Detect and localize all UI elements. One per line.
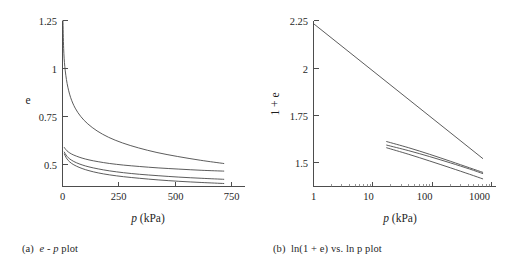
caption-b-suffix: plot [365, 243, 382, 254]
x-ticklabel: 100 [417, 191, 433, 202]
x-ticklabel: 500 [168, 191, 184, 202]
plot-b: 2.25 2 1.75 1.5 1 10 100 1000 1 + e p (k… [255, 0, 510, 235]
plot-a-svg: 1.25 1 0.75 0.5 0 250 500 750 e p (kPa) [0, 0, 255, 235]
plot-a: 1.25 1 0.75 0.5 0 250 500 750 e p (kPa) [0, 0, 255, 235]
caption-b-vs: vs. [331, 243, 343, 254]
y-ticklabel: 2.25 [290, 16, 308, 27]
plot-a-axes [63, 21, 245, 187]
data-curve [387, 148, 483, 179]
y-ticklabel: 1.75 [290, 111, 308, 122]
caption-a-sym1: e [39, 243, 44, 254]
caption-a: (a) e - p plot [22, 243, 78, 254]
y-axis-title-a: e [25, 94, 30, 106]
y-ticklabel: 2 [303, 64, 308, 75]
plot-b-svg: 2.25 2 1.75 1.5 1 10 100 1000 1 + e p (k… [255, 0, 510, 235]
y-ticklabel: 1.25 [39, 16, 57, 27]
caption-b: (b) ln(1 + e) vs. ln p plot [273, 243, 382, 254]
data-curve [314, 24, 483, 159]
caption-b-sym: ln p [346, 243, 362, 254]
x-ticklabels-a: 0 250 500 750 [60, 191, 240, 202]
data-curve [387, 142, 483, 173]
y-ticklabel: 0.75 [39, 112, 57, 123]
y-ticklabels-a: 1.25 1 0.75 0.5 [39, 16, 57, 171]
caption-a-sym2: p [53, 243, 58, 254]
x-ticks-a [63, 182, 232, 187]
y-ticklabel: 1.5 [295, 158, 308, 169]
caption-a-label: (a) [22, 243, 34, 254]
x-axis-units-b: (kPa) [392, 212, 417, 225]
y-ticks-b [314, 21, 319, 163]
data-curve [64, 148, 223, 172]
x-ticklabels-b: 1 10 100 1000 [311, 191, 490, 202]
x-ticklabel: 0 [60, 191, 65, 202]
data-curve [387, 145, 483, 173]
x-ticks-b [314, 182, 492, 187]
figure-panel-a: 1.25 1 0.75 0.5 0 250 500 750 e p (kPa) [0, 0, 255, 269]
x-ticklabel: 250 [111, 191, 127, 202]
x-ticklabel: 750 [224, 191, 240, 202]
x-ticklabel: 1000 [469, 191, 490, 202]
caption-a-dash: - [47, 243, 51, 254]
x-ticklabel: 10 [363, 191, 374, 202]
x-axis-title-a: p (kPa) [130, 212, 165, 225]
figure-panel-b: 2.25 2 1.75 1.5 1 10 100 1000 1 + e p (k… [255, 0, 510, 269]
y-ticklabels-b: 2.25 2 1.75 1.5 [290, 16, 308, 169]
x-ticklabel: 1 [311, 191, 316, 202]
y-ticklabel: 1 [52, 64, 57, 75]
caption-b-label: (b) [273, 243, 286, 254]
y-axis-title-b: 1 + e [269, 92, 281, 115]
data-curve [64, 154, 223, 184]
figure-container: 1.25 1 0.75 0.5 0 250 500 750 e p (kPa) [0, 0, 510, 269]
y-ticklabel: 0.5 [44, 160, 57, 171]
data-curves-b [314, 24, 483, 179]
data-curve [63, 21, 224, 164]
x-axis-units-a: (kPa) [140, 212, 165, 225]
x-axis-title-b: p (kPa) [382, 212, 417, 225]
data-curve [64, 152, 223, 179]
caption-a-suffix: plot [61, 243, 78, 254]
caption-b-lead: ln(1 + e) [291, 243, 328, 254]
data-curves-a [63, 21, 224, 184]
